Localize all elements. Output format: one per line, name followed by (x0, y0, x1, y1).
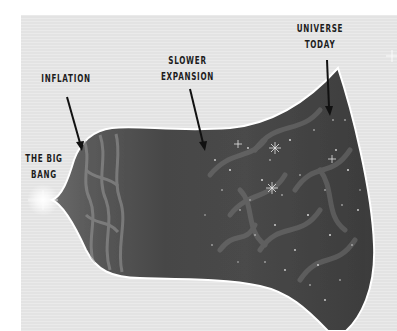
label-big-bang: THE BIG BANG (20, 151, 69, 183)
big-bang-glow (27, 184, 59, 216)
label-inflation: INFLATION (36, 71, 95, 87)
distant-star-icon (386, 50, 397, 62)
label-universe-today: UNIVERSE TODAY (291, 21, 349, 53)
inflation-arrow-icon (67, 97, 84, 151)
label-slower-expansion: SLOWER EXPANSION (157, 53, 218, 85)
